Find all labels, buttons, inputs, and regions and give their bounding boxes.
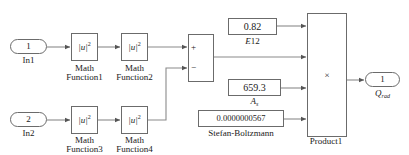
math-function-block-1-caption: Math Function1 [59, 64, 110, 83]
math-function-block-2-caption: Math Function2 [109, 64, 160, 83]
math-function-4-caption-line2: Function4 [109, 145, 160, 154]
constant-block-area-caption: As [228, 97, 281, 106]
math-function-1-expression: |u|2 [78, 43, 90, 52]
constant-block-stefan-boltzmann-caption: Stefan-Boltzmann [193, 129, 289, 138]
output-port-qrad-label: Qrad [365, 89, 400, 98]
constant-block-stefan-boltzmann[interactable]: 0.0000000567 [198, 110, 284, 127]
constant-e12-value: 0.82 [244, 22, 262, 32]
constant-stefan-boltzmann-value: 0.0000000567 [217, 114, 266, 123]
math-function-block-3-caption: Math Function3 [59, 136, 110, 155]
input-port-in2-number: 2 [26, 115, 31, 124]
sum-block[interactable]: + − [188, 34, 214, 82]
math-function-block-2[interactable]: |u|2 [121, 33, 148, 61]
output-port-qrad[interactable]: 1 [365, 72, 400, 87]
math-function-4-expression: |u|2 [128, 116, 140, 125]
sum-block-minus-sign: − [191, 63, 196, 72]
input-port-in1-number: 1 [26, 42, 31, 51]
input-port-in1[interactable]: 1 [10, 39, 47, 54]
math-function-3-caption-line2: Function3 [59, 145, 110, 154]
output-port-qrad-label-variable: Q [375, 88, 382, 98]
math-function-2-expression: |u|2 [128, 43, 140, 52]
constant-e12-caption-subscript: 12 [251, 36, 260, 46]
product-block-1-caption: Product1 [300, 137, 352, 146]
simulink-block-diagram: 1 In1 2 In2 |u|2 Math Function1 |u|2 Mat… [0, 0, 409, 155]
sum-block-plus-sign: + [191, 43, 196, 52]
input-port-in2[interactable]: 2 [10, 112, 47, 127]
product-block-1[interactable]: × [307, 13, 347, 137]
input-port-in2-label: In2 [10, 129, 47, 138]
constant-block-e12-caption: E12 [228, 37, 277, 46]
math-function-1-caption-line2: Function1 [59, 73, 110, 82]
math-function-3-expression: |u|2 [78, 116, 90, 125]
constant-area-caption-subscript: s [256, 101, 258, 107]
input-port-in1-label: In1 [10, 56, 47, 65]
math-function-block-4-caption: Math Function4 [109, 136, 160, 155]
math-function-block-3[interactable]: |u|2 [71, 106, 98, 134]
math-function-block-1[interactable]: |u|2 [71, 33, 98, 61]
math-function-block-4[interactable]: |u|2 [121, 106, 148, 134]
product-block-1-operator: × [324, 70, 329, 80]
constant-block-area[interactable]: 659.3 [228, 79, 281, 96]
constant-block-e12[interactable]: 0.82 [228, 18, 277, 35]
math-function-2-caption-line2: Function2 [109, 73, 160, 82]
constant-area-value: 659.3 [243, 83, 266, 93]
output-port-qrad-label-subscript: rad [382, 93, 390, 99]
output-port-qrad-number: 1 [380, 75, 385, 84]
